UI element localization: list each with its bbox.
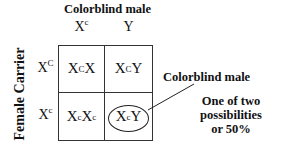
probability-note: One of two possibilities or 50% — [176, 94, 286, 136]
note-line-2: possibilities — [176, 108, 286, 122]
note-line-1: One of two — [176, 94, 286, 108]
note-line-3: or 50% — [176, 122, 286, 136]
callout-label: Colorblind male — [163, 70, 250, 85]
